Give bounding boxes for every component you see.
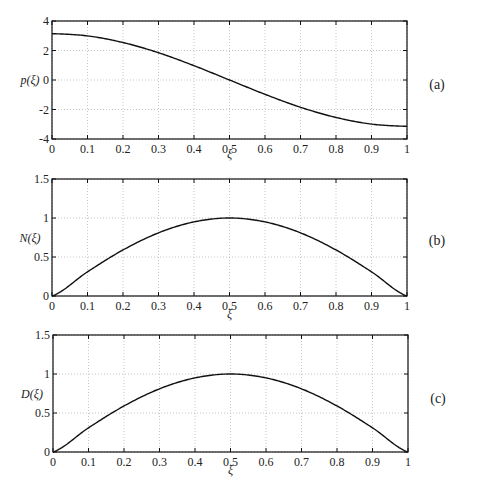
- x-tick-label: 0.7: [293, 299, 308, 313]
- y-tick-label: 0: [44, 445, 50, 459]
- y-tick-label: 0.5: [35, 406, 50, 420]
- x-tick-label: 0.7: [293, 142, 308, 156]
- y-tick-label: 1: [44, 367, 50, 381]
- x-tick-label: 0.6: [258, 299, 273, 313]
- x-tick-label: 0: [49, 142, 55, 156]
- y-tick-label: 2: [43, 44, 49, 58]
- y-tick-label: -2: [39, 103, 49, 117]
- x-tick-label: 1: [404, 142, 410, 156]
- x-tick-label: 0.3: [152, 455, 167, 469]
- y-axis-label: N(ξ): [18, 231, 40, 245]
- x-tick-label: 0.3: [151, 142, 166, 156]
- grid: [52, 179, 407, 296]
- data-line: [52, 34, 407, 127]
- x-tick-label: 0.8: [329, 142, 344, 156]
- x-tick-label: 1: [404, 299, 410, 313]
- x-tick-label: 0.8: [330, 455, 345, 469]
- x-tick-label: 0.1: [81, 455, 96, 469]
- x-tick-label: 0.1: [80, 142, 95, 156]
- panel-label: (c): [430, 391, 446, 407]
- x-tick-label: 0.4: [188, 455, 203, 469]
- y-tick-label: 1.5: [34, 172, 49, 186]
- y-tick-label: 1.5: [35, 328, 50, 342]
- x-tick-label: 0.6: [259, 455, 274, 469]
- figure: 00.10.20.30.40.50.60.70.80.91-4-2024p(ξ)…: [0, 0, 485, 492]
- chart-panel-a: 00.10.20.30.40.50.60.70.80.91-4-2024p(ξ)…: [19, 14, 445, 161]
- x-tick-label: 0.2: [116, 299, 131, 313]
- x-tick-label: 0.9: [364, 299, 379, 313]
- y-tick-label: 0: [43, 289, 49, 303]
- x-axis-label: ξ: [228, 463, 234, 477]
- y-tick-label: 0: [43, 73, 49, 87]
- panel-label: (a): [429, 77, 445, 93]
- x-tick-label: 0.7: [294, 455, 309, 469]
- y-tick-label: 0.5: [34, 250, 49, 264]
- y-axis-label: D(ξ): [20, 387, 43, 401]
- x-tick-label: 0.9: [364, 142, 379, 156]
- x-tick-label: 1: [405, 455, 411, 469]
- x-tick-label: 0.4: [187, 142, 202, 156]
- y-tick-label: -4: [39, 132, 49, 146]
- x-tick-label: 0.4: [187, 299, 202, 313]
- panel-label: (b): [429, 233, 446, 249]
- y-axis-label: p(ξ): [19, 73, 39, 87]
- grid: [53, 335, 408, 452]
- x-tick-label: 0.1: [80, 299, 95, 313]
- x-tick-label: 0.3: [151, 299, 166, 313]
- x-tick-label: 0: [50, 455, 56, 469]
- x-tick-label: 0.6: [258, 142, 273, 156]
- x-tick-label: 0.8: [329, 299, 344, 313]
- chart-panel-b: 00.10.20.30.40.50.60.70.80.9100.511.5N(ξ…: [18, 172, 445, 321]
- chart-panel-c: 00.10.20.30.40.50.60.70.80.9100.511.5D(ξ…: [20, 328, 446, 477]
- y-tick-label: 1: [43, 211, 49, 225]
- x-tick-label: 0.2: [117, 455, 132, 469]
- x-axis-label: ξ: [227, 307, 233, 321]
- x-tick-label: 0.2: [116, 142, 131, 156]
- x-tick-label: 0.9: [365, 455, 380, 469]
- x-axis-label: ξ: [227, 147, 233, 161]
- y-tick-label: 4: [43, 14, 49, 28]
- x-tick-label: 0: [49, 299, 55, 313]
